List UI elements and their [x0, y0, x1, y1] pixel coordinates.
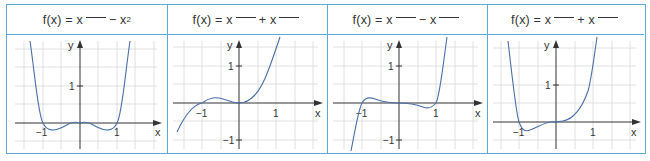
svg-text:y: y [387, 39, 393, 51]
header-prefix: f(x) = x [353, 13, 393, 27]
exponent-blank-2[interactable] [439, 17, 459, 18]
graph-1: x y 1 −1 1 [7, 35, 167, 153]
exponent-blank-1[interactable] [554, 17, 574, 18]
column-header-2: f(x) = x + x [168, 5, 327, 35]
graph-4: x y 1 −1 1 [488, 35, 644, 153]
plot-svg: x y 1 −1 1 [7, 35, 167, 153]
exponent-blank-2[interactable] [598, 17, 618, 18]
graph-3: x y 1 −1 −1 1 [328, 35, 487, 153]
svg-text:1: 1 [388, 61, 394, 72]
svg-text:x: x [315, 107, 321, 119]
svg-text:y: y [227, 39, 233, 51]
svg-text:−1: −1 [36, 127, 48, 138]
header-prefix: f(x) = x [43, 13, 83, 27]
graph-2: x y 1 −1 −1 1 [168, 35, 327, 153]
svg-text:x: x [475, 107, 481, 119]
column-header-3: f(x) = x − x [328, 5, 487, 35]
header-exponent: 2 [127, 15, 132, 24]
header-prefix: f(x) = x [511, 13, 551, 27]
svg-text:−1: −1 [196, 108, 208, 119]
svg-text:1: 1 [114, 127, 120, 138]
svg-text:−1: −1 [383, 135, 395, 146]
header-operator: − [109, 13, 117, 27]
svg-text:1: 1 [433, 108, 439, 119]
exponent-blank[interactable] [86, 17, 106, 18]
svg-text:1: 1 [545, 80, 551, 91]
svg-text:x: x [631, 126, 637, 138]
column-header-1: f(x) = x − x2 [7, 5, 167, 35]
svg-text:x: x [155, 126, 161, 138]
svg-text:1: 1 [228, 61, 234, 72]
plot-svg: x y 1 −1 1 [488, 35, 645, 153]
header-prefix: f(x) = x [193, 13, 233, 27]
column-header-4: f(x) = x + x [488, 5, 644, 35]
svg-text:y: y [68, 39, 74, 51]
plot-svg: x y 1 −1 −1 1 [328, 35, 488, 153]
exponent-blank-1[interactable] [236, 17, 256, 18]
plot-svg: x y 1 −1 −1 1 [168, 35, 328, 153]
header-term2: x [588, 13, 594, 27]
svg-text:1: 1 [590, 127, 596, 138]
svg-text:−1: −1 [223, 135, 235, 146]
svg-text:1: 1 [273, 108, 279, 119]
svg-text:1: 1 [69, 81, 75, 92]
table-column-4: f(x) = x + x [487, 5, 644, 153]
header-operator: − [419, 13, 427, 27]
exponent-blank-1[interactable] [396, 17, 416, 18]
function-table: f(x) = x − x2 [6, 4, 646, 154]
table-column-2: f(x) = x + x [167, 5, 327, 153]
svg-text:y: y [544, 39, 550, 51]
exponent-blank-2[interactable] [279, 17, 299, 18]
header-term2: x [270, 13, 276, 27]
table-column-3: f(x) = x − x [327, 5, 487, 153]
header-term2: x [430, 13, 436, 27]
table-column-1: f(x) = x − x2 [7, 5, 167, 153]
header-operator: + [259, 13, 267, 27]
header-operator: + [577, 13, 585, 27]
